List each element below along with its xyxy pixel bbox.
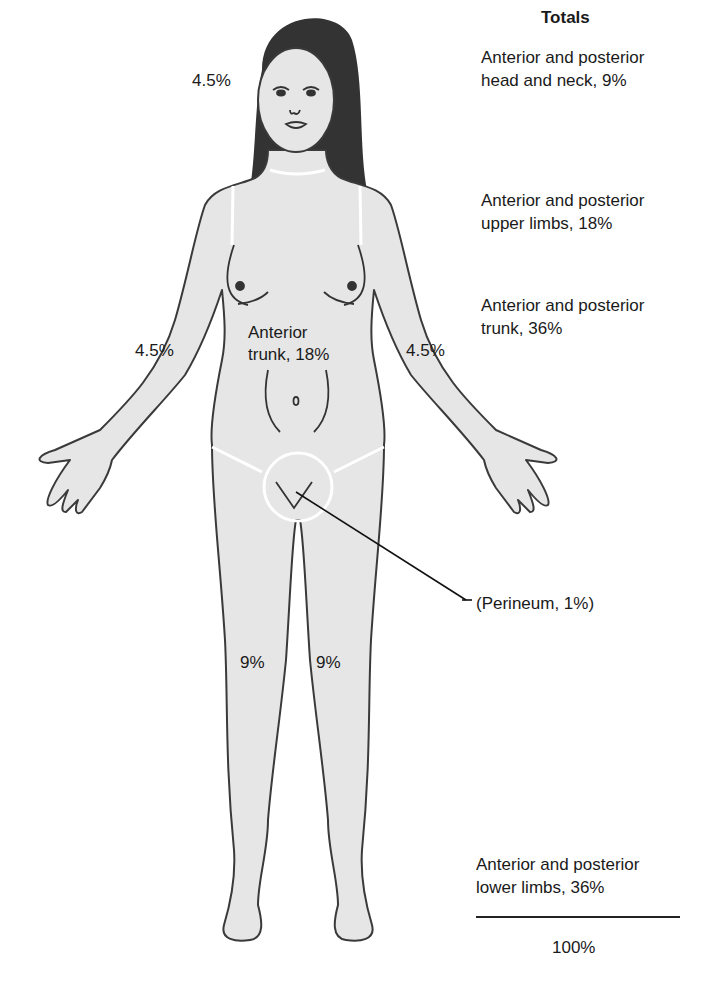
trunk-label-line1: Anterior — [248, 322, 308, 344]
totals-upper-limbs-line2: upper limbs, 18% — [481, 212, 701, 235]
right-leg-percentage-label: 9% — [240, 652, 265, 674]
head-percentage-label: 4.5% — [192, 70, 231, 92]
totals-upper-limbs-line1: Anterior and posterior — [481, 189, 701, 212]
totals-head-neck: Anterior and posterior head and neck, 9% — [481, 46, 701, 92]
totals-upper-limbs: Anterior and posterior upper limbs, 18% — [481, 189, 701, 235]
totals-trunk: Anterior and posterior trunk, 36% — [481, 294, 701, 340]
perineum-label: (Perineum, 1%) — [476, 593, 594, 615]
totals-lower-limbs-line1: Anterior and posterior — [476, 853, 696, 876]
body-diagram — [0, 0, 708, 990]
totals-lower-limbs-line2: lower limbs, 36% — [476, 876, 696, 899]
right-arm-percentage-label: 4.5% — [135, 340, 174, 362]
sum-divider — [476, 916, 680, 918]
totals-head-neck-line1: Anterior and posterior — [481, 46, 701, 69]
left-leg-percentage-label: 9% — [316, 652, 341, 674]
totals-sum: 100% — [552, 938, 595, 958]
left-arm-percentage-label: 4.5% — [406, 340, 445, 362]
trunk-label-line2: trunk, 18% — [248, 344, 329, 366]
body-silhouette — [40, 48, 557, 941]
totals-trunk-line1: Anterior and posterior — [481, 294, 701, 317]
totals-heading: Totals — [541, 8, 590, 28]
totals-head-neck-line2: head and neck, 9% — [481, 69, 701, 92]
totals-lower-limbs: Anterior and posterior lower limbs, 36% — [476, 853, 696, 899]
totals-trunk-line2: trunk, 36% — [481, 317, 701, 340]
